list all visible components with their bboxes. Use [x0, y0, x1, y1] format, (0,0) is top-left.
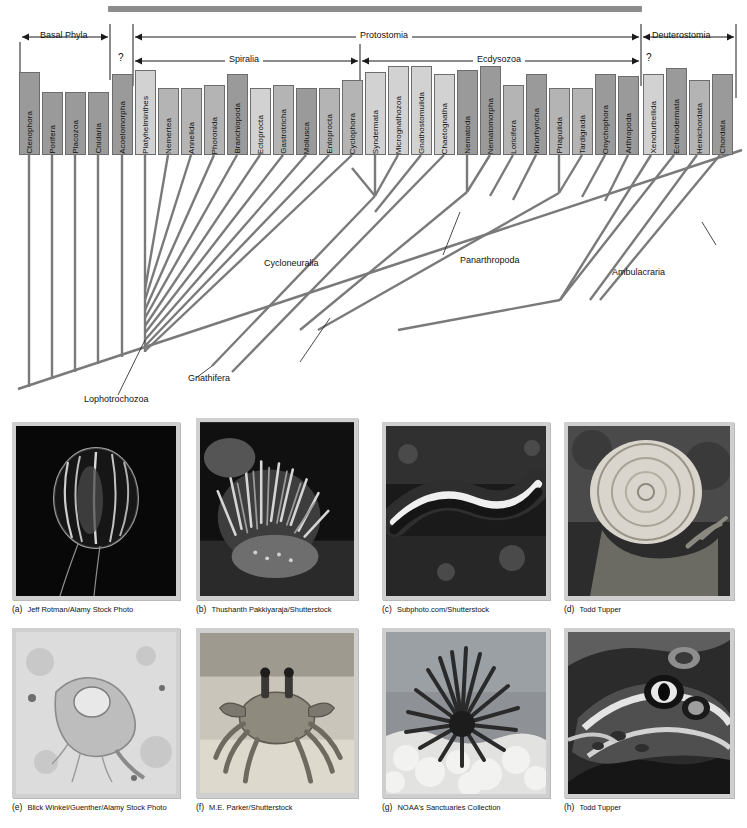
taxon-box-nematoda[interactable]: Nematoda	[457, 70, 478, 155]
taxon-box-porifera[interactable]: Porifera	[42, 92, 63, 155]
photo-credit: M.E. Parker/Shutterstock	[209, 803, 292, 812]
taxon-label: Branchiopoda	[234, 100, 242, 154]
clade-label-panarthropoda: Panarthropoda	[460, 255, 520, 265]
taxon-box-annelida[interactable]: Annelida	[181, 88, 202, 155]
taxon-label: Onychophora	[602, 102, 610, 154]
photo-cell-a: (a) Jeff Rotman/Alamy Stock Photo	[12, 422, 180, 614]
taxon-box-chaetognatha[interactable]: Chaetognatha	[434, 74, 455, 155]
photo-frame-e[interactable]	[12, 628, 180, 798]
photo-cell-b: (b) Thushanth Pakkiyaraja/Shutterstock	[196, 418, 358, 614]
photo-letter: (c)	[382, 604, 392, 614]
taxon-box-priapulida[interactable]: Priapulida	[549, 88, 570, 155]
clade-label-cycloneuralia: Cycloneuralia	[264, 258, 319, 268]
taxon-box-branchiopoda[interactable]: Branchiopoda	[227, 74, 248, 155]
taxon-box-gastrotricha[interactable]: Gastrotricha	[273, 85, 294, 155]
phylogenetic-tree-panel: ? ? Basal Phyla Protostomia Spiralia Ecd…	[0, 0, 747, 412]
photo-caption-b: (b) Thushanth Pakkiyaraja/Shutterstock	[196, 604, 358, 614]
photo-credit: Blick Winkel/Guenther/Alamy Stock Photo	[27, 803, 166, 812]
photo-frame-f[interactable]	[196, 628, 358, 798]
photo-leopard-frog	[568, 632, 730, 794]
taxon-box-cnidaria[interactable]: Cnidaria	[88, 92, 109, 155]
taxon-label: Priapulida	[556, 114, 564, 154]
photo-credit: Jeff Rotman/Alamy Stock Photo	[27, 605, 133, 614]
photo-flatworm	[386, 426, 546, 596]
clade-bracket-basal-phyla: Basal Phyla	[40, 30, 88, 40]
clade-bracket-ecdysozoa: Ecdysozoa	[473, 54, 525, 64]
taxon-box-nematomorpha[interactable]: Nematomorpha	[480, 66, 501, 155]
photo-frame-g[interactable]	[382, 628, 550, 798]
taxon-box-syndermata[interactable]: Syndermata	[365, 72, 386, 155]
photo-cell-c: (c) Subphoto.com/Shutterstock	[382, 422, 550, 614]
taxon-box-mollusca[interactable]: Mollusca	[296, 88, 317, 155]
photo-letter: (d)	[564, 604, 574, 614]
photo-credit: Thushanth Pakkiyaraja/Shutterstock	[211, 605, 331, 614]
taxon-label: Hemichordata	[696, 100, 704, 154]
uncertainty-mark-2: ?	[646, 52, 652, 63]
taxon-box-micrognathozoa[interactable]: Micrognathozoa	[388, 66, 409, 155]
clade-bracket-deuterostomia: Deuterostomia	[652, 30, 711, 40]
photo-frame-c[interactable]	[382, 422, 550, 600]
taxon-box-loricifera[interactable]: Loricifera	[503, 85, 524, 155]
taxon-label: Annelida	[188, 119, 196, 154]
photo-rotifer	[16, 632, 176, 794]
taxon-box-kinorhyncha[interactable]: Kinorhyncha	[526, 74, 547, 155]
photo-frame-b[interactable]	[196, 418, 358, 600]
photo-credit: NOAA's Sanctuaries Collection	[397, 803, 500, 812]
clade-label-gnathifera: Gnathifera	[188, 373, 230, 383]
photo-frame-h[interactable]	[564, 628, 734, 798]
taxon-label: Phoronida	[211, 114, 219, 154]
photo-caption-c: (c) Subphoto.com/Shutterstock	[382, 604, 550, 614]
taxon-label: Kinorhyncha	[533, 105, 541, 154]
tree-lines	[0, 0, 747, 412]
taxon-label: Micrognathozoa	[395, 93, 403, 154]
photo-letter: (a)	[12, 604, 22, 614]
taxon-label: Mollusca	[303, 119, 311, 154]
taxon-label: Loricifera	[510, 117, 518, 154]
photo-cell-f: (f) M.E. Parker/Shutterstock	[196, 628, 358, 812]
taxon-label: Arthropoda	[625, 110, 633, 154]
photo-cell-h: (h) Todd Tupper	[564, 628, 734, 812]
taxon-box-cyclophora[interactable]: Cyclophora	[342, 80, 363, 155]
taxon-box-arthropoda[interactable]: Arthropoda	[618, 76, 639, 155]
photo-caption-e: (e) Blick Winkel/Guenther/Alamy Stock Ph…	[12, 802, 180, 812]
photo-caption-d: (d) Todd Tupper	[564, 604, 734, 614]
clade-label-lophotrochozoa: Lophotrochozoa	[84, 394, 149, 404]
photo-frame-a[interactable]	[12, 422, 180, 600]
taxon-label: Platyhelminthes	[142, 93, 150, 154]
taxon-label: Cnidaria	[95, 120, 103, 154]
clade-bracket-spiralia: Spiralia	[225, 54, 263, 64]
photo-sea-urchin	[386, 632, 546, 794]
photo-frame-d[interactable]	[564, 422, 734, 600]
taxon-label: Porifera	[49, 122, 57, 154]
taxon-box-ectoprocta[interactable]: Ectoprocta	[250, 88, 271, 155]
photo-cell-g: (g) NOAA's Sanctuaries Collection	[382, 628, 550, 812]
taxon-box-entoprocta[interactable]: Entoprocta	[319, 88, 340, 155]
photo-letter: (b)	[196, 604, 206, 614]
taxon-box-onychophora[interactable]: Onychophora	[595, 74, 616, 155]
taxon-box-echinodermata[interactable]: Echinodermata	[666, 68, 687, 155]
taxon-box-gnathostomulida[interactable]: Gnathostomulida	[411, 66, 432, 155]
taxon-box-nemertea[interactable]: Nemertea	[158, 88, 179, 155]
photo-cell-e: (e) Blick Winkel/Guenther/Alamy Stock Ph…	[12, 628, 180, 812]
taxon-box-platyhelminthes[interactable]: Platyhelminthes	[135, 70, 156, 155]
photo-snail	[568, 426, 730, 596]
photo-credit: Todd Tupper	[579, 605, 621, 614]
photo-cell-d: (d) Todd Tupper	[564, 422, 734, 614]
photo-caption-a: (a) Jeff Rotman/Alamy Stock Photo	[12, 604, 180, 614]
photo-caption-f: (f) M.E. Parker/Shutterstock	[196, 802, 358, 812]
taxon-box-placozoa[interactable]: Placozoa	[65, 92, 86, 155]
taxon-box-tardigrada[interactable]: Tardigrada	[572, 88, 593, 155]
taxon-label: Entoprocta	[326, 111, 334, 154]
photo-letter: (e)	[12, 802, 22, 812]
photo-credit: Todd Tupper	[579, 803, 621, 812]
taxon-label: Gnathostomulida	[418, 89, 426, 154]
taxon-label: Nematoda	[464, 113, 472, 154]
taxon-label: Tardigrada	[579, 112, 587, 154]
taxon-box-acoelomorpha[interactable]: Acoelomorpha	[112, 74, 133, 155]
taxon-box-phoronida[interactable]: Phoronida	[204, 85, 225, 155]
taxon-box-ctenophora[interactable]: Ctenophora	[19, 72, 40, 155]
taxon-box-chordata[interactable]: Chordata	[712, 74, 733, 155]
taxon-box-xenoturbellida[interactable]: Xenoturbellida	[643, 74, 664, 155]
taxon-box-hemichordata[interactable]: Hemichordata	[689, 80, 710, 155]
taxon-label: Acoelomorpha	[119, 98, 127, 154]
